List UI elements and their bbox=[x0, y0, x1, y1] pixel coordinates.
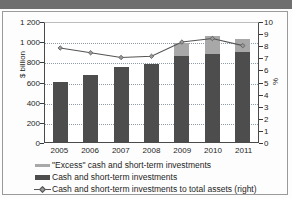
y-tick-label-right: 4 bbox=[264, 90, 284, 99]
y-tick-label-left: 400 bbox=[4, 98, 40, 107]
y-tick-mark-left bbox=[40, 143, 44, 144]
x-tick-label: 2006 bbox=[75, 146, 106, 158]
y-tick-label-right: 10 bbox=[264, 18, 284, 27]
bar-group bbox=[136, 23, 166, 142]
x-tick-label: 2005 bbox=[44, 146, 75, 158]
bar-segment-excess bbox=[174, 43, 189, 56]
y-tick-label-right: 9 bbox=[264, 30, 284, 39]
bar-group bbox=[45, 23, 75, 142]
y-tick-mark-right bbox=[259, 34, 263, 35]
legend-swatch-excess-icon bbox=[34, 160, 51, 171]
y-tick-mark-right bbox=[259, 143, 263, 144]
y-tick-label-right: 1 bbox=[264, 126, 284, 135]
page-header-artifact bbox=[0, 0, 292, 9]
y-tick-label-right: 3 bbox=[264, 102, 284, 111]
y-tick-label-left: 0 bbox=[4, 139, 40, 148]
y-axis-right-title: % bbox=[271, 78, 280, 85]
bar-segment-cash bbox=[235, 52, 250, 142]
legend-item-cash: Cash and short-term investments bbox=[34, 172, 284, 183]
bar-group bbox=[228, 23, 258, 142]
bar-stack bbox=[53, 82, 68, 143]
bar-segment-cash bbox=[114, 67, 129, 142]
y-tick-mark-right bbox=[259, 46, 263, 47]
x-tick-label: 2009 bbox=[167, 146, 198, 158]
y-tick-label-left: 200 bbox=[4, 118, 40, 127]
legend-label-cash: Cash and short-term investments bbox=[52, 172, 177, 183]
y-tick-mark-right bbox=[259, 83, 263, 84]
legend-swatch-cash-icon bbox=[34, 172, 51, 183]
chart-figure: 02004006008001 0001 200 012345678910 $ b… bbox=[0, 0, 292, 198]
x-tick-label: 2011 bbox=[228, 146, 259, 158]
chart-legend: "Excess" cash and short-term investments… bbox=[34, 160, 284, 196]
y-tick-label-right: 8 bbox=[264, 42, 284, 51]
x-tick-label: 2010 bbox=[198, 146, 229, 158]
bar-stack bbox=[83, 75, 98, 142]
bar-segment-cash bbox=[53, 82, 68, 143]
bar-stack bbox=[174, 43, 189, 142]
bar-group bbox=[167, 23, 197, 142]
bar-stack bbox=[144, 64, 159, 142]
y-tick-label-right: 6 bbox=[264, 66, 284, 75]
y-tick-label-right: 7 bbox=[264, 54, 284, 63]
bar-segment-excess bbox=[205, 36, 220, 54]
bar-stack bbox=[235, 39, 250, 142]
x-tick-label: 2007 bbox=[105, 146, 136, 158]
y-tick-mark-right bbox=[259, 22, 263, 23]
y-tick-label-right: 0 bbox=[264, 139, 284, 148]
bar-group bbox=[197, 23, 227, 142]
bar-segment-excess bbox=[235, 39, 250, 52]
x-axis-labels: 2005200620072008200920102011 bbox=[44, 146, 259, 158]
legend-item-ratio: Cash and short-term investments to total… bbox=[34, 184, 284, 195]
y-axis-left-title: $ billion bbox=[18, 30, 27, 100]
x-tick-label: 2008 bbox=[136, 146, 167, 158]
y-tick-label-left: 1 200 bbox=[4, 18, 40, 27]
bar-segment-cash bbox=[83, 75, 98, 142]
bar-segment-cash bbox=[174, 56, 189, 142]
y-tick-mark-right bbox=[259, 107, 263, 108]
legend-line-marker-icon bbox=[34, 184, 51, 195]
y-tick-mark-right bbox=[259, 95, 263, 96]
plot-area bbox=[44, 22, 259, 143]
legend-label-excess: "Excess" cash and short-term investments bbox=[52, 160, 211, 171]
bar-stack bbox=[205, 36, 220, 142]
bar-group bbox=[106, 23, 136, 142]
bar-group bbox=[75, 23, 105, 142]
y-tick-mark-right bbox=[259, 70, 263, 71]
y-tick-mark-right bbox=[259, 119, 263, 120]
legend-label-ratio: Cash and short-term investments to total… bbox=[52, 184, 257, 195]
legend-item-excess: "Excess" cash and short-term investments bbox=[34, 160, 284, 171]
bar-series-group bbox=[45, 23, 258, 142]
y-tick-mark-right bbox=[259, 131, 263, 132]
bar-stack bbox=[114, 67, 129, 142]
y-tick-mark-right bbox=[259, 58, 263, 59]
bar-segment-cash bbox=[205, 54, 220, 142]
y-tick-label-right: 2 bbox=[264, 114, 284, 123]
bar-segment-cash bbox=[144, 64, 159, 142]
